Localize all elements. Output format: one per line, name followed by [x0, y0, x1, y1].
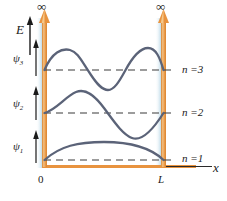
x-axis-label: x: [213, 161, 219, 174]
diagram-canvas: [0, 0, 227, 201]
psi2-subscript: 2: [20, 104, 23, 111]
psi1-symbol: ψ: [13, 140, 20, 152]
particle-in-a-box-figure: ∞ ∞ E ψ3 ψ2 ψ1 n =3 n =2 n =1 x 0 L: [0, 0, 227, 201]
right-wall-shadow: [155, 18, 161, 168]
infinity-left-label: ∞: [37, 0, 46, 13]
width-tick-label: L: [158, 174, 164, 185]
infinity-right-label: ∞: [156, 0, 165, 13]
wavefunction-curve-n3: [45, 48, 164, 90]
energy-axis-label: E: [16, 23, 24, 36]
level-label-n1: n =1: [182, 153, 203, 164]
psi2-label: ψ2: [13, 98, 23, 112]
psi3-label: ψ3: [13, 53, 23, 67]
wavefunction-curve-n1: [45, 142, 164, 160]
level-label-n3: n =3: [182, 64, 203, 75]
level-label-n2: n =2: [182, 107, 203, 118]
origin-tick-label: 0: [38, 174, 44, 185]
psi1-subscript: 1: [20, 147, 23, 154]
psi2-symbol: ψ: [13, 97, 20, 109]
psi1-label: ψ1: [13, 141, 23, 155]
wavefunction-curve-n2: [45, 91, 164, 139]
psi3-subscript: 3: [20, 59, 23, 66]
psi3-symbol: ψ: [13, 52, 20, 64]
energy-axis-arrow: [27, 16, 33, 55]
